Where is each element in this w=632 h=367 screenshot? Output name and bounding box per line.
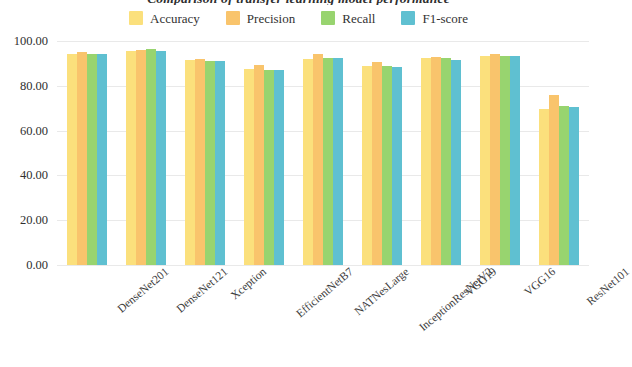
bar[interactable] (480, 56, 490, 265)
y-tick-label: 0.00 (26, 258, 48, 273)
y-tick-label: 40.00 (20, 168, 48, 183)
bar[interactable] (126, 51, 136, 265)
y-axis: 100.0080.0060.0040.0020.000.00 (0, 41, 52, 265)
bar[interactable] (500, 56, 510, 265)
bar[interactable] (333, 58, 343, 265)
bar[interactable] (441, 58, 451, 265)
bar[interactable] (372, 62, 382, 265)
x-tick-label: DenseNet201 (115, 266, 170, 315)
bar[interactable] (451, 60, 461, 265)
bar[interactable] (431, 57, 441, 265)
bar[interactable] (156, 51, 166, 265)
legend-label: Precision (247, 12, 295, 25)
bar[interactable] (303, 59, 313, 265)
bar[interactable] (146, 49, 156, 265)
legend-swatch-icon (401, 11, 415, 25)
x-tick-label: DenseNet121 (174, 266, 229, 315)
legend-label: Accuracy (150, 12, 200, 25)
bar[interactable] (559, 106, 569, 265)
bar[interactable] (264, 70, 274, 265)
bar-group (530, 41, 589, 265)
legend-swatch-icon (129, 11, 143, 25)
x-tick-label: ResNet101 (585, 266, 632, 308)
bar[interactable] (215, 61, 225, 265)
bar[interactable] (362, 66, 372, 265)
x-tick-label: NATNesLarge (353, 266, 412, 318)
legend-item-recall[interactable]: Recall (321, 11, 375, 25)
x-tick-label: VGG16 (523, 266, 558, 298)
bar[interactable] (185, 60, 195, 265)
bar[interactable] (244, 69, 254, 265)
legend-swatch-icon (226, 11, 240, 25)
bar[interactable] (67, 54, 77, 265)
y-tick-label: 80.00 (20, 78, 48, 93)
bar-group (116, 41, 175, 265)
legend-label: F1-score (422, 12, 468, 25)
bar-group (353, 41, 412, 265)
legend-item-accuracy[interactable]: Accuracy (129, 11, 200, 25)
y-tick-label: 100.00 (14, 34, 48, 49)
legend-item-f1-score[interactable]: F1-score (401, 11, 468, 25)
chart-title: Comparison of transfer learning model pe… (0, 0, 597, 5)
legend-label: Recall (342, 12, 375, 25)
legend-item-precision[interactable]: Precision (226, 11, 295, 25)
bar[interactable] (421, 58, 431, 265)
bar[interactable] (313, 54, 323, 265)
bar[interactable] (97, 54, 107, 265)
bar[interactable] (549, 95, 559, 265)
legend-swatch-icon (321, 11, 335, 25)
bar-group (234, 41, 293, 265)
bar[interactable] (510, 56, 520, 265)
bar[interactable] (490, 54, 500, 265)
bar[interactable] (539, 109, 549, 265)
bar[interactable] (274, 70, 284, 265)
bar[interactable] (205, 61, 215, 265)
bar[interactable] (136, 50, 146, 265)
bar-group (471, 41, 530, 265)
bar-groups (57, 41, 589, 265)
chart-legend: AccuracyPrecisionRecallF1-score (0, 8, 597, 28)
bar[interactable] (392, 67, 402, 265)
y-tick-label: 20.00 (20, 213, 48, 228)
bar-group (175, 41, 234, 265)
bar[interactable] (569, 107, 579, 265)
y-tick-label: 60.00 (20, 123, 48, 138)
bar[interactable] (195, 59, 205, 265)
bar[interactable] (382, 66, 392, 265)
bar[interactable] (323, 58, 333, 265)
x-axis-labels: DenseNet201DenseNet121XceptionEfficientN… (57, 266, 589, 366)
x-tick-label: Xception (229, 266, 269, 302)
bar[interactable] (77, 52, 87, 265)
x-tick-label: EfficientNetB7 (294, 266, 355, 320)
bar[interactable] (254, 65, 264, 265)
plot-area (57, 41, 589, 265)
bar-group (293, 41, 352, 265)
bar-group (412, 41, 471, 265)
bar[interactable] (87, 54, 97, 265)
bar-group (57, 41, 116, 265)
